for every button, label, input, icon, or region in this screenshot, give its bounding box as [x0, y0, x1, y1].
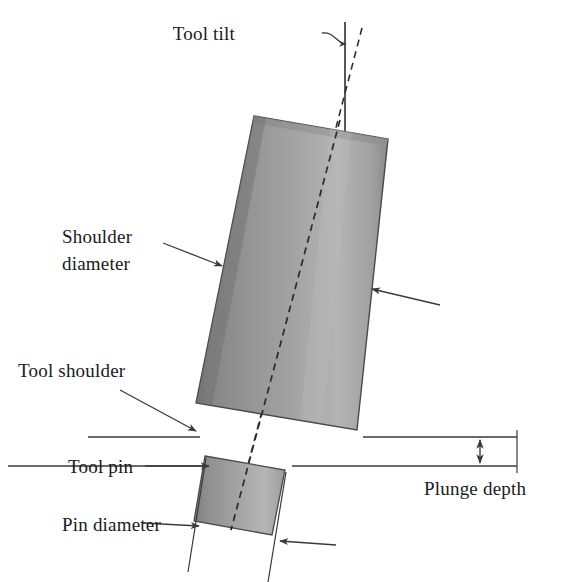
tool-pin-label: Tool pin [68, 456, 133, 477]
pin-diameter-leader-right [280, 541, 336, 545]
shoulder-diameter-leader-left [163, 243, 222, 266]
shoulder-diameter-leader-right [372, 289, 440, 305]
shoulder-diameter-label-line2: diameter [62, 253, 131, 274]
tool-tilt-label: Tool tilt [173, 23, 236, 44]
tool-shoulder-leader [120, 390, 196, 431]
tool-shoulder-label: Tool shoulder [18, 360, 126, 381]
diagram-canvas: Tool tilt Shoulder diameter Tool shoulde… [0, 0, 565, 582]
tool-geometry-diagram: Tool tilt Shoulder diameter Tool shoulde… [0, 0, 565, 582]
pin-diameter-label: Pin diameter [62, 514, 161, 535]
tool-shoulder-body [196, 116, 388, 430]
tool-tilt-callout [322, 33, 346, 44]
shoulder-diameter-label-line1: Shoulder [62, 226, 133, 247]
plunge-depth-label: Plunge depth [424, 478, 526, 499]
